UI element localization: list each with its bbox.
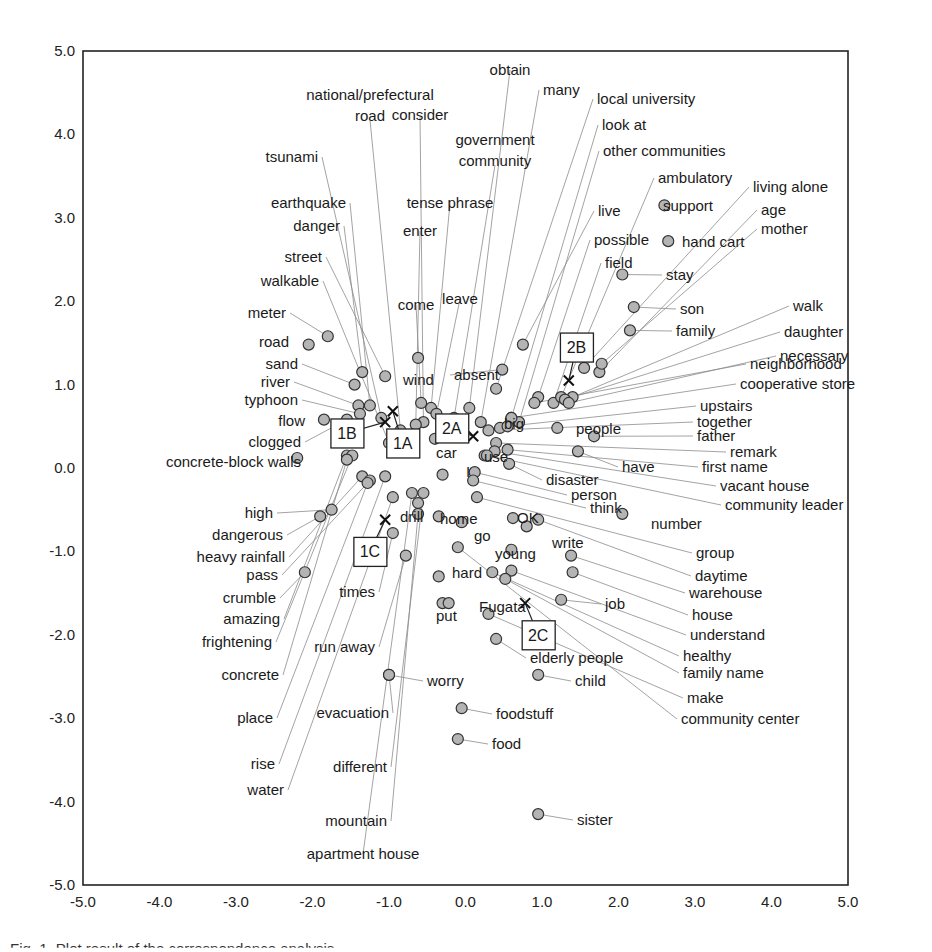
point-label: healthy — [683, 647, 732, 664]
point-label: big — [504, 415, 524, 432]
point-label: flow — [278, 412, 305, 429]
point-label: rise — [251, 755, 275, 772]
data-point-marker — [624, 325, 635, 336]
correspondence-analysis-plot: -5.0-4.0-3.0-2.0-1.00.01.02.03.04.05.05.… — [0, 0, 932, 952]
data-point-marker — [303, 339, 314, 350]
data-point-marker — [491, 383, 502, 394]
y-tick-label: 0.0 — [54, 459, 75, 476]
data-point-marker — [567, 567, 578, 578]
x-tick-label: 5.0 — [838, 893, 859, 910]
point-label: other communities — [603, 142, 726, 159]
point-label: walkable — [260, 272, 319, 289]
point-label: tsunami — [265, 148, 318, 165]
point-label: son — [680, 300, 704, 317]
point-label: live — [598, 202, 621, 219]
centroid-x-icon — [380, 515, 390, 525]
group-label: 1B — [337, 425, 357, 442]
point-label: group — [696, 544, 734, 561]
point-label: neighborhood — [750, 355, 842, 372]
data-point-marker — [579, 362, 590, 373]
data-point-marker — [418, 488, 429, 499]
point-label: sand — [265, 355, 298, 372]
point-label: consider — [392, 106, 449, 123]
point-label: times — [339, 583, 375, 600]
y-tick-label: 3.0 — [54, 209, 75, 226]
point-label: absent — [454, 366, 500, 383]
point-label: leave — [442, 290, 478, 307]
data-point-marker — [456, 703, 467, 714]
leader-line — [370, 120, 400, 430]
point-label: OK — [517, 509, 539, 526]
point-label: car — [436, 444, 457, 461]
point-label: ambulatory — [658, 169, 733, 186]
y-tick-label: -5.0 — [49, 876, 75, 893]
point-label: support — [663, 197, 714, 214]
axes: -5.0-4.0-3.0-2.0-1.00.01.02.03.04.05.05.… — [49, 42, 858, 910]
point-label: meter — [248, 304, 286, 321]
point-label: enter — [403, 222, 437, 239]
data-point-marker — [362, 478, 373, 489]
point-label: pass — [246, 566, 278, 583]
point-label: concrete — [221, 666, 279, 683]
centroid-x-icon — [468, 431, 478, 441]
leader-line — [573, 572, 688, 615]
data-point-marker — [364, 400, 375, 411]
x-tick-label: 3.0 — [685, 893, 706, 910]
point-label: use — [484, 448, 508, 465]
point-label: apartment house — [307, 845, 420, 862]
point-label: concrete-block walls — [166, 453, 301, 470]
x-tick-label: -1.0 — [376, 893, 402, 910]
leader-line — [508, 450, 698, 467]
point-label: amazing — [223, 610, 280, 627]
data-point-marker — [357, 367, 368, 378]
point-label: age — [761, 201, 786, 218]
data-point-marker — [315, 511, 326, 522]
leader-line — [630, 330, 672, 331]
data-point-marker — [566, 550, 577, 561]
point-label: first name — [702, 458, 768, 475]
data-point-marker — [529, 397, 540, 408]
centroid-x-icon — [388, 406, 398, 416]
data-point-marker — [533, 669, 544, 680]
point-label: water — [246, 781, 284, 798]
point-label: come — [398, 296, 435, 313]
y-tick-label: 5.0 — [54, 42, 75, 59]
leader-line — [436, 299, 460, 414]
point-label: mountain — [325, 812, 387, 829]
point-label: Fugata — [479, 598, 526, 615]
point-label: wind — [402, 371, 434, 388]
point-label: family — [676, 322, 716, 339]
point-label: evacuation — [316, 704, 389, 721]
group-label: 2C — [528, 627, 548, 644]
data-point-marker — [387, 492, 398, 503]
leader-line — [469, 70, 510, 408]
data-point-marker — [452, 734, 463, 745]
data-point-marker — [341, 454, 352, 465]
leader-line — [284, 455, 347, 619]
point-label: field — [605, 254, 633, 271]
leader-line — [571, 556, 685, 593]
data-point-marker — [533, 809, 544, 820]
data-point-marker — [380, 471, 391, 482]
data-point-marker — [556, 594, 567, 605]
point-label: write — [551, 534, 584, 551]
point-label: job — [604, 595, 625, 612]
point-label: worry — [426, 672, 464, 689]
point-label: river — [261, 373, 290, 390]
y-tick-label: 4.0 — [54, 125, 75, 142]
point-label: local university — [597, 90, 696, 107]
point-label: vacant house — [720, 477, 809, 494]
point-label: people — [576, 420, 621, 437]
data-point-marker — [354, 408, 365, 419]
point-label: possible — [594, 231, 649, 248]
leader-line — [326, 257, 385, 376]
point-label: earthquake — [271, 194, 346, 211]
point-label: look at — [602, 116, 647, 133]
leader-line — [416, 231, 420, 425]
x-tick-label: -3.0 — [223, 893, 249, 910]
group-label: 1C — [360, 543, 380, 560]
data-point-marker — [464, 402, 475, 413]
point-label: run away — [314, 638, 375, 655]
data-point-marker — [487, 567, 498, 578]
data-point-marker — [416, 397, 427, 408]
